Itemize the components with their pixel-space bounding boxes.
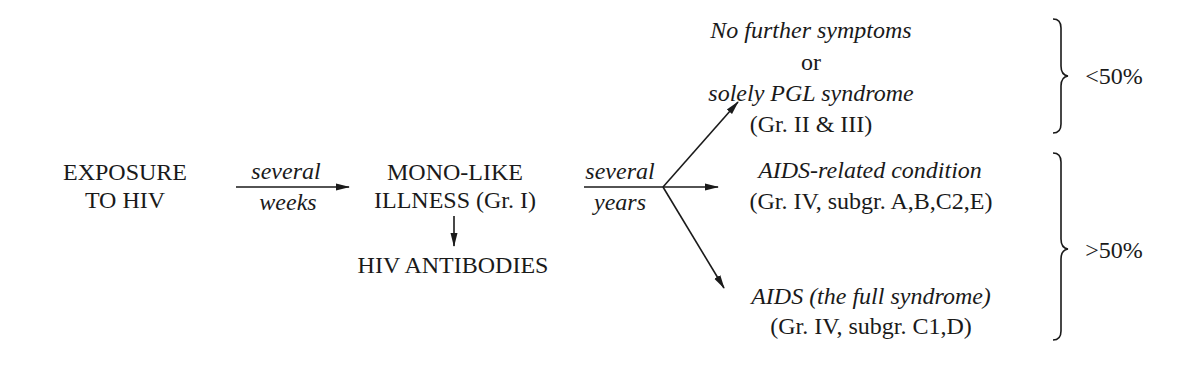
edge-label-several-weeks-below: weeks (259, 188, 316, 216)
node-no-symptoms-line3: solely PGL syndrome (708, 79, 913, 107)
node-arc-line1: AIDS-related condition (758, 156, 982, 184)
edge-label-several-years-above: several (585, 157, 654, 185)
node-exposure-line2: TO HIV (85, 186, 165, 214)
group-label-minority: <50% (1085, 62, 1143, 90)
node-mono-line1: MONO-LIKE (387, 158, 523, 186)
node-aids-line2: (Gr. IV, subgr. C1,D) (770, 312, 972, 340)
node-mono-line2: ILLNESS (Gr. I) (374, 186, 536, 214)
node-no-symptoms-line1: No further symptoms (710, 16, 911, 44)
node-no-symptoms-line2: or (801, 48, 821, 76)
node-exposure-line1: EXPOSURE (63, 158, 187, 186)
node-aids-line1: AIDS (the full syndrome) (751, 282, 991, 310)
node-arc-line2: (Gr. IV, subgr. A,B,C2,E) (750, 187, 993, 215)
brace-majority (1053, 153, 1068, 340)
brace-minority (1053, 19, 1068, 133)
edge-label-several-years-below: years (594, 188, 646, 216)
edge-label-several-weeks-above: several (251, 157, 320, 185)
group-label-majority: >50% (1085, 236, 1143, 264)
node-no-symptoms-line4: (Gr. II & III) (750, 110, 873, 138)
node-antibodies: HIV ANTIBODIES (358, 251, 549, 279)
